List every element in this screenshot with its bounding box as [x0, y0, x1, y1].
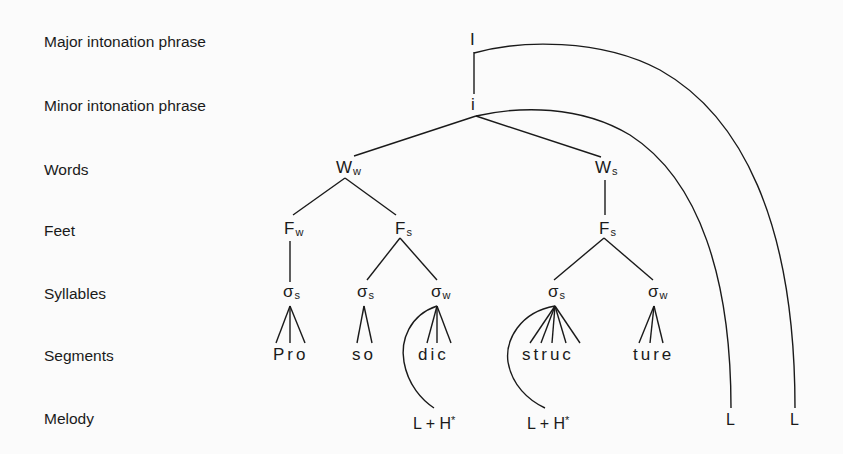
segment-pro: Pro	[273, 346, 308, 364]
node-minor-intonation-phrase: i	[471, 96, 475, 114]
node-label: σ	[357, 282, 368, 301]
node-word-strong: Ws	[595, 159, 618, 180]
melody-label: L + H	[527, 415, 565, 432]
tree-connectors	[0, 0, 843, 454]
melody-pitch-accent-1: L + H*	[413, 411, 455, 433]
segment-ture: ture	[633, 346, 674, 364]
node-label: F	[395, 219, 405, 238]
node-subscript: w	[443, 289, 451, 301]
node-label: W	[336, 158, 352, 177]
node-foot-strong-1: Fs	[395, 220, 412, 241]
node-subscript: s	[369, 289, 375, 301]
node-label: σ	[283, 282, 294, 301]
node-foot-strong-2: Fs	[599, 220, 616, 241]
node-label: σ	[648, 282, 659, 301]
node-label: W	[595, 158, 611, 177]
melody-boundary-minor: L	[726, 411, 735, 429]
node-subscript: s	[295, 289, 301, 301]
segment-struc: struc	[522, 346, 574, 364]
node-major-intonation-phrase: I	[470, 31, 475, 49]
node-label: F	[599, 219, 609, 238]
node-subscript: s	[610, 226, 616, 238]
node-syllable-2: σs	[357, 283, 374, 304]
node-subscript: w	[353, 165, 361, 177]
node-label: F	[284, 219, 294, 238]
node-label: i	[471, 95, 475, 114]
node-subscript: w	[660, 289, 668, 301]
node-word-weak: Ww	[336, 159, 361, 180]
node-subscript: s	[406, 226, 412, 238]
node-label: I	[470, 30, 475, 49]
node-foot-weak: Fw	[284, 220, 303, 241]
node-syllable-5: σw	[648, 283, 667, 304]
node-syllable-4: σs	[548, 283, 565, 304]
melody-pitch-accent-2: L + H*	[527, 411, 569, 433]
node-subscript: w	[295, 226, 303, 238]
segment-dic: dic	[418, 346, 449, 364]
node-label: σ	[548, 282, 559, 301]
melody-boundary-major: L	[790, 411, 799, 429]
melody-star: *	[565, 414, 569, 426]
node-syllable-3: σw	[431, 283, 450, 304]
melody-label: L + H	[413, 415, 451, 432]
segment-so: so	[352, 346, 376, 364]
node-label: σ	[431, 282, 442, 301]
melody-star: *	[451, 414, 455, 426]
node-subscript: s	[612, 165, 618, 177]
node-syllable-1: σs	[283, 283, 300, 304]
node-subscript: s	[560, 289, 566, 301]
